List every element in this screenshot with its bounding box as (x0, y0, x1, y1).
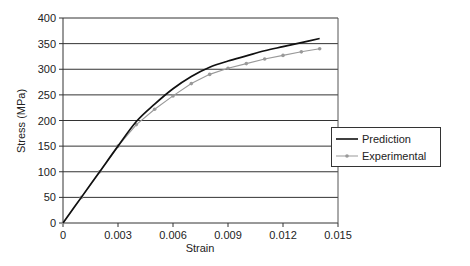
y-tick-label: 150 (38, 140, 56, 152)
experimental-data-point (318, 47, 322, 51)
prediction-line-swatch (336, 134, 358, 144)
experimental-data-point (190, 82, 194, 86)
legend-item-prediction: Prediction (336, 131, 411, 147)
experimental-line (63, 49, 320, 223)
y-tick-label: 0 (50, 217, 56, 229)
x-tick-labels: 00.0030.0060.0090.0120.015 (60, 229, 352, 241)
legend-item-experimental: Experimental (336, 148, 426, 164)
prediction-line (63, 39, 320, 224)
y-tick-label: 400 (38, 12, 56, 24)
experimental-line-swatch (336, 151, 358, 161)
axes (59, 18, 338, 227)
x-tick-label: 0.006 (159, 229, 187, 241)
experimental-data-point (171, 94, 175, 98)
y-tick-labels: 050100150200250300350400 (38, 12, 56, 229)
y-axis-title: Stress (MPa) (15, 89, 27, 153)
x-axis-title: Strain (186, 242, 215, 254)
experimental-data-point (208, 73, 212, 77)
experimental-data-point (281, 54, 285, 58)
y-tick-label: 350 (38, 38, 56, 50)
gridlines (63, 18, 338, 197)
x-tick-label: 0.012 (269, 229, 297, 241)
legend-label-experimental: Experimental (362, 150, 426, 162)
x-tick-label: 0.009 (214, 229, 242, 241)
experimental-data-point (300, 50, 304, 54)
x-tick-label: 0 (60, 229, 66, 241)
y-tick-label: 300 (38, 63, 56, 75)
data-series (61, 39, 321, 225)
x-tick-label: 0.003 (104, 229, 132, 241)
legend-label-prediction: Prediction (362, 133, 411, 145)
experimental-data-point (245, 62, 249, 66)
experimental-data-point (153, 107, 157, 111)
experimental-data-point (226, 66, 230, 70)
y-tick-label: 250 (38, 89, 56, 101)
x-tick-label: 0.015 (324, 229, 352, 241)
y-tick-label: 50 (44, 191, 56, 203)
y-tick-label: 200 (38, 115, 56, 127)
y-tick-label: 100 (38, 166, 56, 178)
experimental-data-point (263, 57, 267, 61)
legend: Prediction Experimental (331, 127, 441, 167)
